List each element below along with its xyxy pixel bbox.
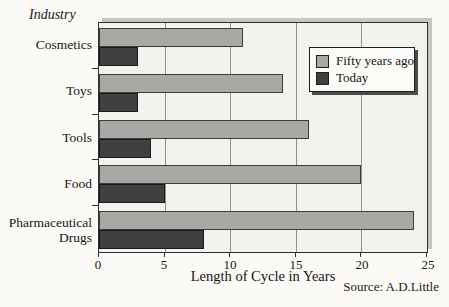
bar-row-tools bbox=[99, 115, 427, 161]
bar-fifty-years-ago bbox=[99, 120, 309, 139]
bar-row-food bbox=[99, 160, 427, 206]
bar-today bbox=[99, 139, 151, 158]
y-axis-tick bbox=[92, 159, 99, 160]
y-axis-tick bbox=[92, 205, 99, 206]
chart-title: Industry bbox=[29, 7, 76, 23]
legend: Fifty years agoToday bbox=[309, 47, 415, 92]
bar-fifty-years-ago bbox=[99, 28, 243, 47]
legend-item-today: Today bbox=[316, 70, 408, 86]
category-label-food: Food bbox=[0, 176, 92, 191]
category-label-pharmaceutical-drugs: Pharmaceutical Drugs bbox=[0, 215, 92, 245]
category-label-toys: Toys bbox=[0, 84, 92, 99]
bar-fifty-years-ago bbox=[99, 165, 361, 184]
bar-fifty-years-ago bbox=[99, 211, 414, 230]
bar-row-pharmaceutical-drugs bbox=[99, 206, 427, 252]
bar-chart-figure: Industry CosmeticsToysToolsFoodPharmaceu… bbox=[0, 0, 449, 307]
bar-today bbox=[99, 184, 165, 203]
category-label-tools: Tools bbox=[0, 130, 92, 145]
source-note: Source: A.D.Little bbox=[343, 279, 439, 295]
bar-today bbox=[99, 93, 138, 112]
bar-today bbox=[99, 230, 204, 249]
legend-label: Fifty years ago bbox=[336, 53, 414, 69]
legend-label: Today bbox=[336, 70, 368, 86]
legend-item-fifty-years-ago: Fifty years ago bbox=[316, 53, 408, 69]
y-axis-tick bbox=[92, 68, 99, 69]
legend-swatch-icon bbox=[316, 72, 329, 85]
bar-today bbox=[99, 47, 138, 66]
y-axis-tick bbox=[92, 114, 99, 115]
bar-fifty-years-ago bbox=[99, 74, 283, 93]
legend-swatch-icon bbox=[316, 55, 329, 68]
category-label-cosmetics: Cosmetics bbox=[0, 38, 92, 53]
